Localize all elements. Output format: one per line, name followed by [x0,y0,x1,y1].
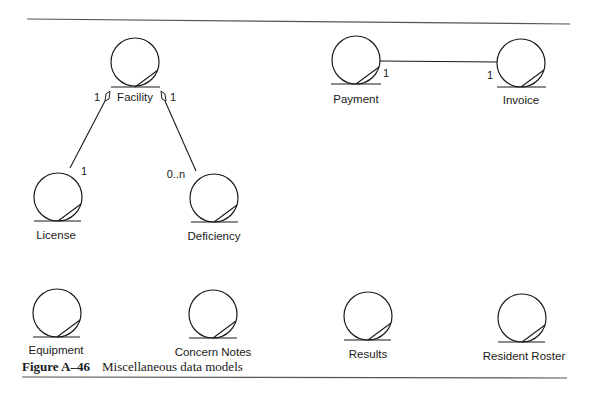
entity-label: Facility [117,91,153,103]
relationship-payment-invoice[interactable] [380,61,497,62]
entity-label: Concern Notes [175,346,252,358]
entity-icon [498,294,546,342]
figure-number: Figure A–46 [22,359,90,374]
entity-facility[interactable]: Facility [111,38,160,103]
entity-label: Invoice [503,94,539,106]
relationship-facility-license[interactable] [70,101,105,168]
entity-invoice[interactable]: Invoice [497,39,546,106]
aggregation-diamond-icon [161,91,166,101]
multiplicity-facility-license: 1 [94,91,100,103]
figure-caption: Figure A–46Miscellaneous data models [22,359,243,375]
entity-icon [190,174,238,222]
entity-label: Payment [333,93,379,105]
data-model-diagram: Facility 1 1 1 0..n Payment 1 1 Invoice … [0,0,592,411]
relationship-facility-deficiency[interactable] [165,101,196,171]
multiplicity-invoice: 1 [487,69,493,81]
figure-title: Miscellaneous data models [102,359,243,374]
entity-icon [111,38,159,86]
entity-deficiency[interactable]: Deficiency [187,174,240,242]
entity-icon [189,290,237,338]
entity-icon [344,292,392,340]
aggregation-diamond-icon [105,91,110,101]
multiplicity-license: 1 [81,165,87,177]
entity-payment[interactable]: Payment [331,36,381,105]
entity-equipment[interactable]: Equipment [29,289,85,356]
entity-label: Equipment [29,344,85,356]
entity-icon [497,39,545,87]
multiplicity-facility-deficiency: 1 [170,91,176,103]
top-rule [27,19,570,24]
multiplicity-payment: 1 [383,67,389,79]
entity-label: License [36,229,76,241]
entity-resident-roster[interactable]: Resident Roster [483,294,566,362]
entity-label: Deficiency [187,230,240,242]
entity-concern-notes[interactable]: Concern Notes [175,290,252,358]
entity-label: Resident Roster [483,350,566,362]
entity-label: Results [349,348,388,360]
entity-license[interactable]: License [34,173,82,241]
entity-icon [33,289,81,337]
entity-results[interactable]: Results [344,292,392,360]
multiplicity-deficiency: 0..n [167,168,185,180]
entity-icon [332,36,380,84]
bottom-rule [22,377,567,378]
entity-icon [34,173,82,221]
